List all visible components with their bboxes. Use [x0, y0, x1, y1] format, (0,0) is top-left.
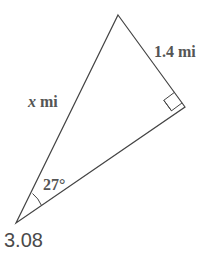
side-label: 1.4 mi: [154, 43, 196, 60]
angle-arc: [33, 194, 42, 206]
right-angle-marker: [164, 92, 182, 110]
answer-value: 3.08: [4, 230, 43, 250]
hypotenuse-label: x mi: [27, 93, 58, 110]
right-angle-marker-inner: [164, 100, 172, 111]
angle-label: 27°: [43, 176, 65, 193]
triangle-diagram: 1.4 mi x mi 27°: [0, 0, 214, 253]
